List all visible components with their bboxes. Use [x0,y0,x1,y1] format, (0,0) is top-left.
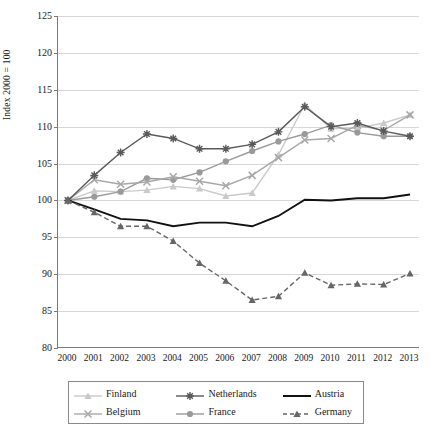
triangle-marker [406,270,413,277]
star-marker [327,123,335,131]
series-germany [64,197,413,303]
netherlands-swatch [175,388,205,400]
x-tick-label: 2003 [136,352,155,364]
x-tick-label: 2011 [347,352,366,364]
chart-legend: Finland Netherlands Austria Belgium Fran… [68,381,364,424]
star-marker [274,128,282,136]
x-tick-label: 2009 [294,352,313,364]
legend-swatch-icon [73,408,103,420]
circle-marker [249,148,255,154]
legend-item-austria[interactable]: Austria [282,388,359,400]
legend-item-finland[interactable]: Finland [73,388,175,400]
legend-item-netherlands[interactable]: Netherlands [175,388,281,400]
y-tick-label: 125 [18,11,52,21]
series-belgium [65,111,414,204]
star-marker [143,130,151,138]
star-marker [196,145,204,153]
star-marker [186,392,194,400]
finland-swatch [73,388,103,400]
y-tick-label: 100 [18,195,52,205]
legend-item-belgium[interactable]: Belgium [73,406,175,418]
legend-swatch-icon [73,390,103,402]
x-tick-label: 2010 [321,352,340,364]
circle-marker [118,188,124,194]
y-tick-label: 105 [18,159,52,169]
triangle-marker [301,269,308,276]
legend-swatch-icon [282,408,312,420]
series-netherlands [64,103,414,205]
x-tick-label: 2001 [84,352,103,364]
star-marker [406,132,414,140]
legend-swatch-icon [282,390,312,402]
y-tick-label: 95 [18,232,52,242]
star-marker [301,103,309,111]
y-tick-label: 115 [18,85,52,95]
legend-label: Netherlands [205,388,256,400]
legend-label: France [205,406,235,418]
triangle-marker [117,223,124,230]
star-marker [169,134,177,142]
x-tick-label: 2008 [268,352,287,364]
legend-row: Belgium France Germany [73,403,359,421]
circle-marker [223,158,229,164]
y-tick-label: 90 [18,269,52,279]
legend-swatch-icon [175,408,205,420]
legend-swatch-icon [175,390,205,402]
legend-row: Finland Netherlands Austria [73,385,359,403]
y-axis-label: Index 2000 = 100 [2,0,12,120]
y-axis-ticks: 12512011511010510095908580 [14,0,52,433]
x-tick-label: 2013 [400,352,419,364]
triangle-marker [170,237,177,244]
legend-label: Finland [103,388,137,400]
y-tick-label: 120 [18,48,52,58]
x-tick-label: 2000 [58,352,77,364]
series-line [68,195,410,227]
y-tick-label: 80 [18,343,52,353]
star-marker [353,119,361,127]
x-tick-label: 2012 [373,352,392,364]
plot-area [57,16,419,348]
y-tick-mark [54,348,58,349]
circle-marker [187,411,193,417]
circle-marker [275,138,281,144]
circle-marker [354,129,360,135]
series-layer [58,16,420,348]
star-marker [380,127,388,135]
germany-swatch [282,406,312,418]
y-tick-label: 110 [18,122,52,132]
circle-marker [302,131,308,137]
star-marker [248,140,256,148]
x-axis-ticks: 2000200120022003200420052006200720082009… [57,352,419,368]
y-tick-label: 85 [18,306,52,316]
france-swatch [175,406,205,418]
star-marker [222,145,230,153]
belgium-swatch [73,406,103,418]
legend-label: Germany [312,406,352,418]
series-austria [68,195,410,227]
x-tick-label: 2006 [215,352,234,364]
star-marker [117,148,125,156]
x-tick-label: 2002 [110,352,129,364]
legend-label: Belgium [103,406,140,418]
austria-swatch [282,388,312,400]
circle-marker [196,169,202,175]
star-marker [90,171,98,179]
triangle-marker [222,277,229,284]
x-tick-label: 2005 [189,352,208,364]
circle-marker [91,194,97,200]
x-tick-label: 2004 [163,352,182,364]
legend-item-france[interactable]: France [175,406,281,418]
legend-label: Austria [312,388,344,400]
legend-item-germany[interactable]: Germany [282,406,359,418]
line-chart: Index 2000 = 100 12512011511010510095908… [0,0,431,433]
x-tick-label: 2007 [242,352,261,364]
x-marker [249,172,256,179]
